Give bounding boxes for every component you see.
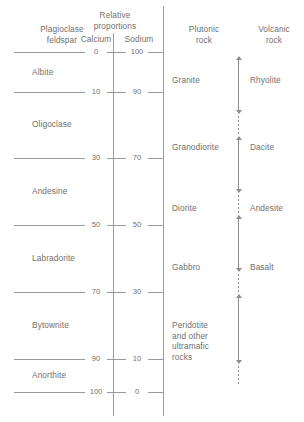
header-volcanic-rock: Volcanic rock: [244, 24, 304, 45]
tick-sodium-70: 70: [126, 154, 148, 162]
feldspar-andesine: Andesine: [32, 186, 67, 197]
plutonic-granodiorite: Granodiorite: [172, 142, 219, 153]
plutonic-diorite: Diorite: [172, 203, 197, 214]
feldspar-anorthite: Anorthite: [32, 370, 66, 381]
tick-calcium-30: 30: [85, 154, 107, 162]
feldspar-labradorite: Labradorite: [32, 253, 75, 264]
plutonic-peridotite: Peridotite and other ultramafic rocks: [172, 320, 209, 362]
tick-calcium-0: 0: [85, 48, 107, 56]
arrow-dots-rhyolite-dacite: [238, 116, 239, 136]
volcanic-basalt: Basalt: [250, 262, 274, 273]
plutonic-granite: Granite: [172, 75, 200, 86]
plutonic-gabbro: Gabbro: [172, 262, 200, 273]
tick-sodium-100: 100: [126, 48, 148, 56]
tick-sodium-50: 50: [126, 221, 148, 229]
arrow-dots-dacite-andesite: [238, 195, 239, 215]
header-calcium: Calcium: [75, 34, 117, 45]
volcanic-dacite: Dacite: [250, 142, 274, 153]
tick-sodium-0: 0: [126, 388, 148, 396]
arrow-line-basalt: [238, 298, 239, 360]
tick-calcium-90: 90: [85, 355, 107, 363]
tick-calcium-70: 70: [85, 288, 107, 296]
feldspar-bytownite: Bytownite: [32, 320, 69, 331]
tick-calcium-10: 10: [85, 88, 107, 96]
tick-calcium-100: 100: [85, 388, 107, 396]
feldspar-oligoclase: Oligoclase: [32, 119, 72, 130]
arrow-head-down-dacite: [236, 189, 242, 193]
arrow-head-down-rhyolite: [236, 110, 242, 114]
tick-calcium-50: 50: [85, 221, 107, 229]
feldspar-albite: Albite: [32, 67, 53, 78]
header-plutonic-rock: Plutonic rock: [172, 24, 236, 45]
header-sodium: Sodium: [118, 34, 160, 45]
header-relative-proportions: Relative proportions: [78, 10, 152, 31]
tick-sodium-30: 30: [126, 288, 148, 296]
tick-sodium-10: 10: [126, 355, 148, 363]
arrow-line-dacite: [238, 140, 239, 189]
arrow-head-down-andesite: [236, 268, 242, 272]
plagioclase-classification-chart: Plagioclase feldspar Relative proportion…: [0, 0, 304, 422]
volcanic-rhyolite: Rhyolite: [250, 75, 281, 86]
arrow-dots-andesite-basalt: [238, 274, 239, 294]
volcanic-gradation-arrow-column: [238, 56, 239, 386]
arrow-head-down-basalt: [236, 360, 242, 364]
arrow-line-andesite: [238, 219, 239, 268]
tick-sodium-90: 90: [126, 88, 148, 96]
divider-proportions-plutonic: [163, 6, 164, 416]
arrow-line-rhyolite: [238, 60, 239, 110]
arrow-dots-basalt-tail: [238, 366, 239, 386]
volcanic-andesite: Andesite: [250, 203, 283, 214]
